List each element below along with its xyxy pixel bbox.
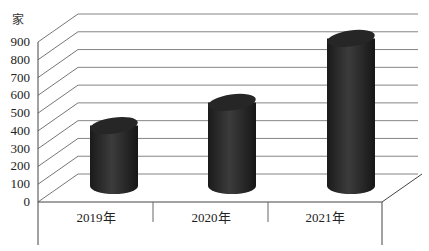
y-tick-label: 500 xyxy=(2,106,30,120)
x-category-label: 2019年 xyxy=(46,207,146,226)
bar-2020年 xyxy=(207,91,257,194)
y-tick-label: 100 xyxy=(2,177,30,191)
y-tick-label: 900 xyxy=(2,35,30,49)
bar-2019年 xyxy=(89,114,139,194)
x-category-label: 2021年 xyxy=(275,207,375,226)
y-tick-label: 800 xyxy=(2,53,30,67)
x-category-label: 2020年 xyxy=(161,207,261,226)
y-tick-label: 700 xyxy=(2,71,30,85)
y-tick-label: 400 xyxy=(2,124,30,138)
bars xyxy=(89,27,376,194)
y-tick-label: 300 xyxy=(2,142,30,156)
bar-2021年 xyxy=(326,27,376,194)
y-tick-label: 600 xyxy=(2,88,30,102)
y-tick-label: 0 xyxy=(2,195,30,209)
y-tick-label: 200 xyxy=(2,159,30,173)
y-axis-unit: 家 xyxy=(12,10,24,28)
